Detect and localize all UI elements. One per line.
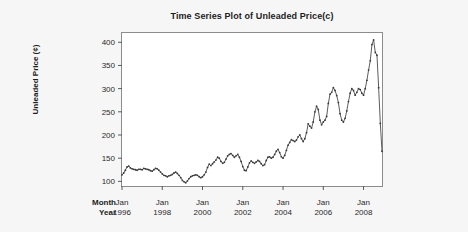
series-data-point [359,89,361,91]
series-data-point [244,169,246,171]
series-data-point [294,141,296,143]
series-data-point [354,94,356,96]
series-data-point [358,88,360,90]
series-data-point [269,156,271,158]
series-data-point [299,134,301,136]
series-data-point [267,156,269,158]
series-data-point [220,161,222,163]
series-data-point [193,174,195,176]
series-data-point [237,154,239,156]
series-data-point [302,141,304,143]
series-data-point [155,167,157,169]
x-tick-label-year: 2008 [355,208,373,217]
series-data-point [284,155,286,157]
series-data-point [129,167,131,169]
series-data-point [239,156,241,158]
series-data-point [287,144,289,146]
series-data-point [319,119,321,121]
x-tick-label-year: 2002 [234,208,252,217]
series-data-point [366,79,368,81]
series-data-point [181,180,183,182]
series-data-point [277,148,279,150]
y-tick-label: 150 [102,154,116,163]
series-data-point [334,90,336,92]
series-data-point [212,163,214,165]
series-data-point [292,140,294,142]
series-data-point [336,95,338,97]
series-data-point [218,157,220,159]
x-tick-label-year: 2006 [314,208,332,217]
series-data-point [279,152,281,154]
series-data-point [121,174,123,176]
series-data-point [257,160,259,162]
series-data-point [245,170,247,172]
series-data-point [188,178,190,180]
series-data-point [252,161,254,163]
series-data-point [232,155,234,157]
series-data-point [205,171,207,173]
x-tick-label-month: Jan [317,198,330,207]
y-axis-ticks: 100150200250300350400 [102,38,122,186]
series-data-point [274,154,276,156]
series-data-point [223,161,225,163]
series-data-point [140,168,142,170]
y-tick-label: 200 [102,131,116,140]
series-data-point [165,175,167,177]
series-data-point [131,168,133,170]
series-data-point [348,101,350,103]
series-data-point [324,119,326,121]
series-data-point [259,161,261,163]
y-tick-label: 300 [102,85,116,94]
series-data-point [225,158,227,160]
series-data-point [230,153,232,155]
series-data-point [374,52,376,54]
series-data-point [183,181,185,183]
series-data-point [265,160,267,162]
figure-canvas: Time Series Plot of Unleaded Price(c) Un… [0,0,468,232]
series-data-point [227,155,229,157]
series-data-point [187,180,189,182]
series-data-point [304,138,306,140]
series-data-point [240,161,242,163]
series-data-point [321,124,323,126]
series-data-point [171,174,173,176]
time-series-plot: 100150200250300350400 Month Year Jan1996… [0,0,468,232]
series-data-point [373,39,375,41]
series-data-point [143,167,145,169]
series-data-point [151,170,153,172]
series-data-point [208,163,210,165]
y-tick-label: 400 [102,38,116,47]
series-data-point [282,157,284,159]
series-data-point [203,174,205,176]
series-data-point [185,182,187,184]
series-data-point [301,138,303,140]
x-tick-label-month: Jan [196,198,209,207]
series-data-point [138,168,140,170]
axis-row-label-month: Month [92,198,116,207]
series-data-point [233,156,235,158]
series-data-point [235,155,237,157]
series-data-point [250,160,252,162]
series-data-point [369,60,371,62]
series-data-point [309,125,311,127]
series-data-point [195,174,197,176]
series-data-point [197,174,199,176]
series-data-point [339,113,341,115]
x-tick-label-month: Jan [236,198,249,207]
series-data-point [160,171,162,173]
x-tick-label-year: 2000 [194,208,212,217]
series-data-point [175,171,177,173]
x-tick-label-year: 1998 [153,208,171,217]
y-tick-label: 250 [102,108,116,117]
series-data-point [326,116,328,118]
y-tick-label: 350 [102,61,116,70]
series-data-point [213,161,215,163]
series-data-point [166,176,168,178]
series-data-point [331,91,333,93]
series-data-point [135,169,137,171]
series-data-point [337,102,339,104]
series-data-point [202,176,204,178]
y-tick-label: 100 [102,177,116,186]
series-data-point [210,165,212,167]
series-data-point [364,88,366,90]
